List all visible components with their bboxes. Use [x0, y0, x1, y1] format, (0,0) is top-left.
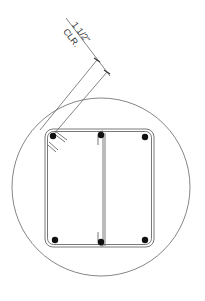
rebar-section-diagram: 1 1/2" CLR. — [0, 0, 205, 301]
tie-hook — [49, 142, 58, 150]
tie-outer — [45, 129, 154, 247]
dimension-tick — [104, 70, 110, 74]
rebar — [98, 132, 104, 138]
rebar — [142, 237, 148, 243]
rebar — [98, 239, 104, 245]
tie-hook — [48, 145, 56, 152]
tie-inner — [48, 132, 152, 245]
rebar — [50, 133, 56, 139]
rebar — [142, 134, 148, 140]
detail-circle — [12, 98, 190, 276]
rebar — [52, 237, 58, 243]
extension-line-outer — [40, 60, 97, 130]
